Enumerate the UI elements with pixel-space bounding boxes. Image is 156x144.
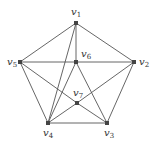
graph-diagram: v1v2v3v4v5v6v7 bbox=[0, 0, 156, 144]
edges bbox=[20, 23, 134, 123]
edge-v2-v7 bbox=[77, 62, 134, 103]
edge-v7-v3 bbox=[77, 103, 107, 123]
label-v2: v2 bbox=[139, 56, 149, 69]
label-v4: v4 bbox=[43, 127, 54, 140]
node-v1 bbox=[74, 21, 78, 25]
edge-v1-v5 bbox=[20, 23, 76, 62]
edge-v5-v7 bbox=[20, 62, 77, 103]
edge-v1-v4 bbox=[48, 23, 76, 123]
edge-v2-v3 bbox=[107, 62, 134, 123]
node-labels: v1v2v3v4v5v6v7 bbox=[7, 6, 149, 140]
node-v3 bbox=[105, 121, 109, 125]
node-v7 bbox=[75, 101, 79, 105]
node-v6 bbox=[74, 60, 78, 64]
node-v5 bbox=[18, 60, 22, 64]
label-v3: v3 bbox=[104, 127, 114, 140]
node-v2 bbox=[132, 60, 136, 64]
edge-v5-v4 bbox=[20, 62, 48, 123]
node-v4 bbox=[46, 121, 50, 125]
label-v5: v5 bbox=[7, 56, 17, 69]
label-v6: v6 bbox=[81, 48, 92, 61]
label-v1: v1 bbox=[71, 6, 81, 19]
label-v7: v7 bbox=[73, 87, 83, 100]
